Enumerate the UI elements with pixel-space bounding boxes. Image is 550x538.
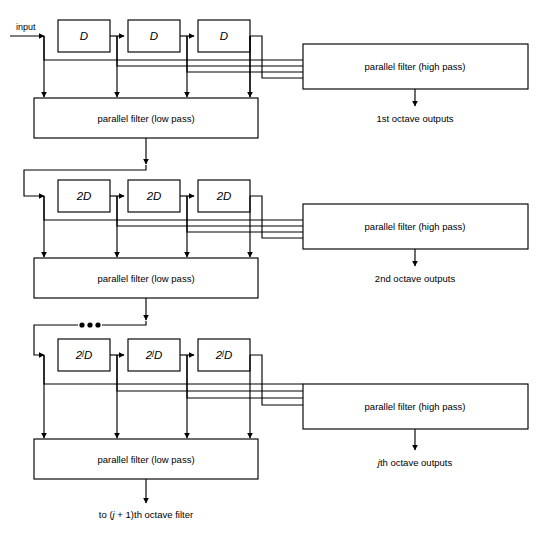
stage-1-delay-label-3: D <box>220 30 228 42</box>
stage-3-delay-label-1: 2jD <box>75 348 93 361</box>
stage-2-output-label: 2nd octave outputs <box>375 273 456 284</box>
stage-1-highpass-label: parallel filter (high pass) <box>365 61 466 72</box>
stage-3-highpass-label: parallel filter (high pass) <box>365 401 466 412</box>
ellipsis-dot-1 <box>79 322 84 327</box>
final-output-label: to (j + 1)th octave filter <box>99 509 193 520</box>
input-label: input <box>16 22 36 32</box>
ellipsis-dot-3 <box>95 322 100 327</box>
stage-2-delay-label-1: 2D <box>76 190 92 202</box>
stage-3-group: 2jD 2jD 2jD parallel filter (low pass) p… <box>34 339 528 520</box>
stage-3-output-label: jth octave outputs <box>376 457 453 468</box>
stage-2-highpass-label: parallel filter (high pass) <box>365 221 466 232</box>
stage-2-lowpass-label: parallel filter (low pass) <box>97 273 194 284</box>
stage-1-delay-label-2: D <box>150 30 158 42</box>
stage-2-ellipsis-right-seg <box>102 321 146 325</box>
stage-1-lowpass-label: parallel filter (low pass) <box>97 113 194 124</box>
stage-3-delay-label-3: 2jD <box>215 348 233 361</box>
stage-2-group: 2D 2D 2D parallel filter (low pass) para… <box>34 180 528 355</box>
stage-2-delay-label-2: 2D <box>146 190 162 202</box>
stage-1-group: input D D D parallel filter (low pass) p… <box>10 20 528 196</box>
stage-3-lowpass-label: parallel filter (low pass) <box>97 454 194 465</box>
ellipsis-dots <box>79 322 100 327</box>
stage-2-delay-label-3: 2D <box>216 190 232 202</box>
stage-3-delay-label-2: 2jD <box>145 348 163 361</box>
stage-1-delay-label-1: D <box>80 30 88 42</box>
octave-filter-bank-diagram: input D D D parallel filter (low pass) p… <box>0 0 550 538</box>
stage-1-output-label: 1st octave outputs <box>376 113 453 124</box>
ellipsis-dot-2 <box>87 322 92 327</box>
